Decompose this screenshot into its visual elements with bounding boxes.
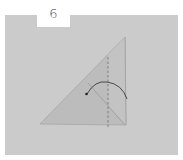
arrow-head-dot-icon <box>85 93 88 96</box>
origami-diagram <box>0 0 183 160</box>
